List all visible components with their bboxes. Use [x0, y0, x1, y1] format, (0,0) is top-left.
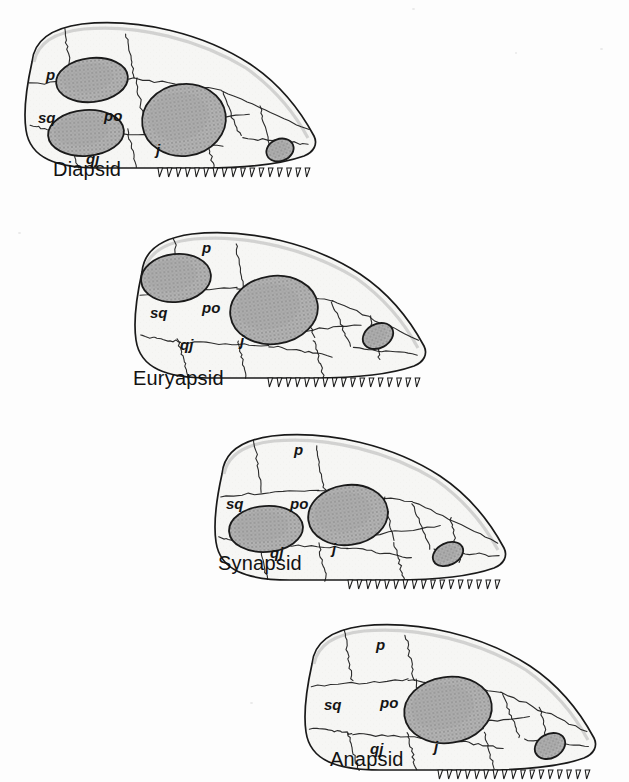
- bone-label-sq: sq: [324, 696, 342, 713]
- skull-caption-anapsid: Anapsid: [330, 748, 404, 771]
- scan-artifact: [250, 702, 253, 704]
- bone-label-po: po: [289, 495, 308, 512]
- bone-label-p: p: [201, 239, 211, 256]
- bone-label-sq: sq: [38, 109, 56, 126]
- skull-caption-euryapsid: Euryapsid: [133, 367, 224, 390]
- skull-caption-diapsid: Diapsid: [53, 158, 121, 181]
- tooth-row: [158, 168, 310, 177]
- bone-label-j: j: [154, 141, 161, 158]
- bone-label-j: j: [330, 540, 337, 557]
- skull-caption-synapsid: Synapsid: [218, 552, 302, 575]
- tooth-row: [268, 378, 420, 387]
- scan-artifact: [515, 52, 517, 54]
- bone-label-po: po: [201, 299, 220, 316]
- tooth-row: [348, 580, 500, 589]
- bone-label-j: j: [432, 738, 439, 755]
- bone-label-po: po: [379, 694, 398, 711]
- scan-artifact: [600, 48, 603, 50]
- bone-label-sq: sq: [150, 304, 168, 321]
- tooth-row: [438, 770, 590, 779]
- bone-label-sq: sq: [226, 495, 244, 512]
- bone-label-p: p: [45, 66, 55, 83]
- bone-label-j: j: [238, 332, 245, 349]
- bone-label-qj: qj: [180, 336, 194, 353]
- bone-label-p: p: [293, 441, 303, 458]
- scan-artifact: [412, 8, 415, 10]
- bone-label-p: p: [375, 636, 385, 653]
- scan-artifact: [18, 232, 21, 234]
- figure-canvas: psqpoqjjDiapsidpsqpoqjjEuryapsidpsqpoqjj…: [0, 0, 629, 782]
- bone-label-po: po: [103, 107, 122, 124]
